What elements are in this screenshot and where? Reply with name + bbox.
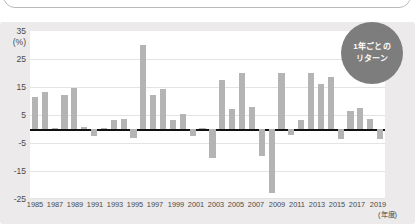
bar — [259, 129, 265, 156]
zero-line — [30, 129, 385, 131]
bar — [71, 88, 77, 129]
x-tick-label: 2019 — [365, 201, 391, 208]
y-tick-label: 5 — [0, 111, 26, 120]
x-axis-unit: (年度) — [378, 211, 397, 218]
bar — [150, 95, 156, 129]
bar — [42, 92, 48, 129]
bar — [269, 129, 275, 193]
top-frame-fragment — [3, 0, 411, 8]
y-tick-label: -5 — [0, 139, 26, 148]
bar — [32, 97, 38, 129]
bar — [140, 45, 146, 129]
bar — [219, 80, 225, 129]
plot-area — [30, 31, 385, 199]
bar — [170, 120, 176, 129]
y-tick-label: 25 — [0, 55, 26, 64]
bar — [91, 129, 97, 136]
chart-figure: 35 (%) 25 15 5 -5 -15 -25 1985 1987 1989… — [0, 0, 415, 224]
gridline-25 — [30, 59, 385, 60]
bar — [308, 73, 314, 129]
bar — [377, 129, 383, 139]
bar — [288, 129, 294, 135]
gridline-neg5 — [30, 143, 385, 144]
y-tick-label: -15 — [0, 167, 26, 176]
y-tick-label: 15 — [0, 83, 26, 92]
bar — [209, 129, 215, 158]
gridline-neg15 — [30, 171, 385, 172]
bar — [101, 128, 107, 129]
y-axis-unit: (%) — [0, 38, 26, 47]
y-tick-label: 35 — [0, 27, 26, 36]
bar — [190, 129, 196, 136]
legend-badge: 1年ごとの リターン — [341, 22, 403, 84]
bar — [347, 111, 353, 129]
bar — [357, 108, 363, 129]
bar — [249, 107, 255, 129]
bar — [328, 77, 334, 129]
bar — [278, 73, 284, 129]
gridline-neg25 — [30, 198, 385, 199]
bar — [121, 119, 127, 129]
bar — [229, 109, 235, 129]
bar — [130, 129, 136, 138]
bar — [61, 95, 67, 129]
bar — [111, 120, 117, 129]
bar — [338, 129, 344, 139]
legend-badge-line1: 1年ごとの — [353, 41, 390, 53]
bar — [199, 128, 205, 129]
bar — [160, 89, 166, 129]
legend-badge-line2: リターン — [356, 53, 389, 65]
bar — [52, 128, 58, 129]
bar — [81, 127, 87, 129]
bar — [318, 84, 324, 129]
bar — [367, 119, 373, 129]
bar — [180, 114, 186, 129]
bar — [298, 120, 304, 129]
bar — [239, 73, 245, 129]
